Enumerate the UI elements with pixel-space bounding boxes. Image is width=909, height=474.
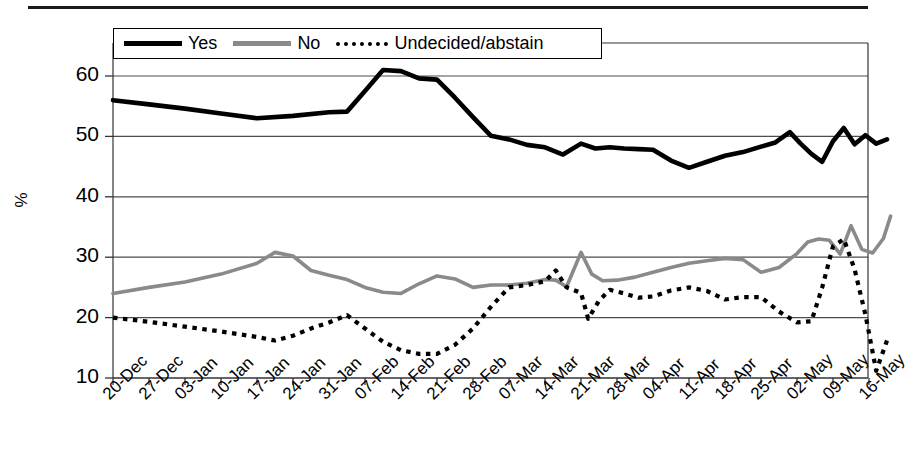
legend-item-no: No [233,33,320,54]
legend-label-no: No [297,33,320,54]
legend-swatch-dotted-line-icon [336,42,388,46]
y-axis-ticks [105,76,113,378]
legend-item-yes: Yes [124,33,217,54]
series-line-yes [113,70,887,168]
y-tick-label: 60 [55,62,99,86]
legend-label-undecided: Undecided/abstain [394,33,543,54]
legend-swatch-gray-line-icon [233,41,291,46]
legend-label-yes: Yes [188,33,217,54]
legend-item-undecided: Undecided/abstain [336,33,543,54]
data-series-group [113,70,891,371]
series-line-undecided-abstain [113,239,887,371]
legend-swatch-solid-line-icon [124,41,182,46]
series-line-no [113,216,891,293]
y-tick-label: 30 [55,243,99,267]
y-axis-title: % [12,192,32,207]
y-tick-label: 40 [55,183,99,207]
plot-frame [113,43,868,378]
y-tick-label: 20 [55,304,99,328]
chart-legend: Yes No Undecided/abstain [113,28,602,59]
y-tick-label: 10 [55,364,99,388]
y-tick-label: 50 [55,122,99,146]
